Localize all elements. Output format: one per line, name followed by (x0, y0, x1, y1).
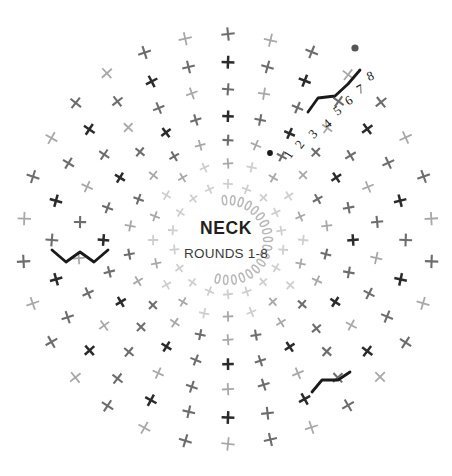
stitch-bar (98, 240, 110, 241)
start-dot (267, 150, 273, 156)
stitch-bar (228, 158, 229, 168)
stitch-bar (227, 27, 228, 40)
stitch-bar (228, 135, 229, 146)
stitch-bar (170, 249, 180, 250)
stitch-bar (278, 249, 288, 250)
stitch-bar (425, 218, 438, 219)
stitch-bar (228, 334, 229, 345)
stitch-bar (298, 239, 308, 240)
end-dot (351, 44, 358, 51)
stitch-bar (227, 289, 228, 299)
stitch-bar (228, 56, 229, 69)
stitch-diagram-canvas: 12345678 (0, 0, 452, 476)
stitch-bar (228, 83, 229, 95)
crochet-chart: 12345678 NECK ROUNDS 1-8 (0, 0, 452, 476)
chart-background (0, 0, 452, 476)
stitch-bar (168, 230, 178, 231)
stitch-bar (371, 221, 383, 222)
stitch-bar (347, 240, 359, 241)
stitch-bar (267, 407, 268, 420)
stitch-bar (228, 383, 229, 395)
stitch-bar (45, 239, 58, 240)
stitch-bar (17, 261, 30, 262)
stitch-bar (73, 258, 85, 259)
